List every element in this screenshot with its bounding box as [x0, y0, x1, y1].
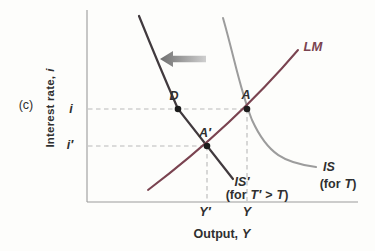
is-prime-sublabel-post: ): [284, 188, 288, 202]
lm-curve-label: LM: [304, 40, 323, 53]
panel-letter: (c): [19, 99, 34, 112]
y-axis-title-variable: i: [44, 68, 56, 71]
x-axis-title-variable: Y: [242, 227, 250, 241]
x-tick-y-prime: Y′: [199, 206, 210, 219]
y-axis-title: Interest rate,i: [45, 68, 57, 147]
is-prime-sublabel-gt: >: [265, 188, 272, 202]
is-sublabel-pre: (for: [320, 177, 341, 191]
y-axis-title-text: Interest rate,: [44, 76, 56, 148]
y-tick-i: i: [69, 103, 72, 116]
lm-curve: [148, 50, 298, 190]
point-A-prime-dot: [204, 143, 211, 150]
y-tick-i-prime: i′: [67, 139, 73, 152]
is-sublabel-post: ): [352, 177, 356, 191]
is-prime-curve: [139, 16, 233, 179]
point-D-dot: [175, 106, 182, 113]
is-curve-sublabel: (forT): [320, 178, 357, 191]
point-A-dot: [244, 106, 251, 113]
shift-left-arrow: [160, 51, 206, 67]
is-curve-label: IS: [323, 161, 335, 174]
x-axis-title: Output,Y: [194, 228, 251, 241]
x-axis-title-text: Output,: [194, 227, 238, 241]
point-A-prime-label: A′: [199, 127, 211, 140]
islm-figure-panel-c: (c) Interest rate,i Output,Y i i′ Y′ Y L…: [0, 0, 375, 251]
is-prime-sublabel-pre: (for: [226, 188, 247, 202]
point-D-label: D: [169, 90, 178, 103]
is-prime-curve-sublabel: (forT′>T): [226, 189, 289, 202]
is-curve: [223, 18, 316, 167]
is-prime-sublabel-variable-1: T′: [251, 188, 262, 202]
x-tick-y: Y: [243, 206, 251, 219]
point-A-label: A: [241, 89, 250, 102]
is-prime-curve-label: IS′: [235, 176, 250, 189]
